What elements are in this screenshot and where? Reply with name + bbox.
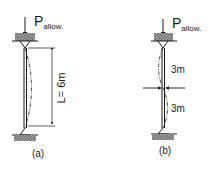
buckled-shape-a [25,48,32,128]
caption-b: (b) [159,145,171,156]
bottom-pin-a [20,128,30,135]
length-label-a: L= 6m [55,73,67,104]
lower-segment-label-b: 3m [171,103,185,114]
top-support-hatch-a [15,33,35,41]
bottom-support-hatch-a [14,135,36,141]
load-label-a: Pallow. [34,13,63,31]
bottom-pin-b [158,128,168,134]
panel-a: Pallow. L= 6m (a) [12,13,67,159]
top-support-hatch-b [154,33,173,41]
load-label-b: Pallow. [172,15,201,33]
column-buckling-diagram: Pallow. L= 6m (a) Pallow. 3m 3m (b) [0,0,210,171]
top-pin-a [20,41,30,48]
panel-b: Pallow. 3m 3m (b) [143,15,201,156]
upper-segment-label-b: 3m [171,64,185,75]
caption-a: (a) [32,148,44,159]
top-pin-b [158,41,168,48]
bottom-support-hatch-b [152,134,174,140]
